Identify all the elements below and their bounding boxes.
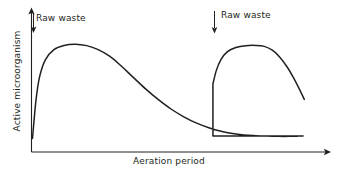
raw-waste-arrow-2 [212, 11, 218, 34]
x-axis [32, 149, 332, 155]
data-series-active-microorganism [33, 44, 305, 138]
chart-canvas [0, 0, 338, 178]
annotation-raw-waste-2: Raw waste [221, 10, 271, 20]
y-axis-label: Active microorganism [10, 16, 24, 146]
x-axis-label: Aeration period [0, 156, 338, 166]
y-axis-label-wrapper: Active microorganism [10, 16, 24, 146]
chart-figure: Aeration period Active microorganism Raw… [0, 0, 338, 178]
annotation-raw-waste-1: Raw waste [36, 13, 86, 23]
